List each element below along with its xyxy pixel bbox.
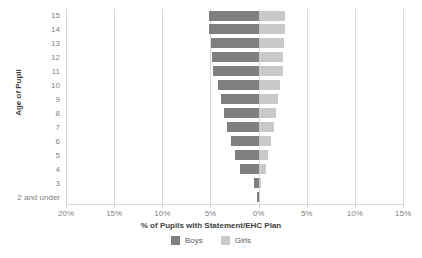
y-axis-tick-label: 7: [56, 121, 60, 134]
bar-boys: [221, 94, 259, 104]
y-axis-tick-label: 4: [56, 163, 60, 176]
y-axis-tick-label: 11: [52, 65, 60, 78]
y-axis-tick-label: 12: [51, 51, 60, 64]
x-axis-tick-label: 15%: [383, 209, 422, 218]
y-axis-tick-label: 15: [51, 9, 60, 22]
bar-row: [66, 148, 403, 162]
bar-boys: [212, 52, 258, 62]
x-axis-tick: [114, 204, 115, 208]
bar-chart: Age of Pupil 15141312111098765432 and un…: [0, 0, 422, 258]
y-axis-tick-label: 9: [56, 93, 60, 106]
x-axis-tick: [162, 204, 163, 208]
bar-row: [66, 176, 403, 190]
bar-boys: [211, 38, 258, 48]
x-axis-tick-label: 10%: [335, 209, 375, 218]
y-axis-tick-label: 5: [56, 149, 60, 162]
x-axis-tick: [403, 204, 404, 208]
legend-swatch-girls-icon: [221, 236, 230, 245]
x-axis-tick: [259, 204, 260, 208]
x-axis-tick-label: 5%: [190, 209, 230, 218]
bar-girls: [259, 52, 283, 62]
bar-row: [66, 190, 403, 204]
y-axis-tick-label: 13: [51, 37, 60, 50]
x-axis-tick-label: 20%: [46, 209, 86, 218]
bar-boys: [231, 136, 259, 146]
bar-row: [66, 51, 403, 65]
bar-boys: [240, 164, 258, 174]
bar-boys: [213, 66, 258, 76]
x-axis-title: % of Pupils with Statement/EHC Plan: [0, 221, 422, 230]
bar-row: [66, 9, 403, 23]
bar-girls: [259, 136, 272, 146]
bar-girls: [259, 150, 269, 160]
plot-area: [66, 9, 403, 204]
bar-boys: [235, 150, 258, 160]
bar-girls: [259, 80, 280, 90]
bar-row: [66, 37, 403, 51]
y-axis-tick-label: 3: [56, 177, 60, 190]
bar-row: [66, 107, 403, 121]
bar-girls: [259, 66, 283, 76]
bar-row: [66, 120, 403, 134]
y-axis-tick-labels: 15141312111098765432 and under: [0, 9, 64, 204]
gridline: [403, 9, 404, 204]
bar-boys: [227, 122, 259, 132]
y-axis-tick-label: 6: [56, 135, 60, 148]
bar-girls: [259, 178, 261, 188]
legend-item-boys: Boys: [171, 236, 203, 245]
bar-girls: [259, 11, 285, 21]
bar-rows: [66, 9, 403, 204]
bar-boys: [209, 11, 259, 21]
x-axis-line: [66, 204, 403, 205]
bar-boys: [224, 108, 259, 118]
x-axis-tick: [307, 204, 308, 208]
bar-girls: [259, 94, 278, 104]
bar-row: [66, 93, 403, 107]
chart-legend: Boys Girls: [0, 236, 422, 245]
legend-swatch-boys-icon: [171, 236, 180, 245]
bar-girls: [259, 24, 285, 34]
x-axis-tick-label: 5%: [287, 209, 327, 218]
y-axis-tick-label: 14: [51, 23, 60, 36]
x-axis-tick: [355, 204, 356, 208]
bar-boys: [209, 24, 258, 34]
bar-row: [66, 79, 403, 93]
bar-girls: [259, 122, 274, 132]
bar-row: [66, 162, 403, 176]
legend-label-girls: Girls: [235, 236, 251, 245]
y-axis-tick-label: 10: [51, 79, 60, 92]
bar-row: [66, 23, 403, 37]
bar-boys: [218, 80, 258, 90]
x-axis-tick-label: 0%: [239, 209, 279, 218]
y-axis-tick-label: 2 and under: [17, 191, 60, 204]
bar-girls: [259, 108, 276, 118]
bar-girls: [259, 164, 267, 174]
bar-girls: [259, 192, 260, 202]
x-axis-tick: [210, 204, 211, 208]
y-axis-tick-label: 8: [56, 107, 60, 120]
x-axis-tick: [66, 204, 67, 208]
bar-row: [66, 134, 403, 148]
bar-row: [66, 65, 403, 79]
legend-item-girls: Girls: [221, 236, 251, 245]
x-axis-tick-label: 10%: [142, 209, 182, 218]
x-axis-tick-label: 15%: [94, 209, 134, 218]
bar-girls: [259, 38, 284, 48]
legend-label-boys: Boys: [185, 236, 203, 245]
